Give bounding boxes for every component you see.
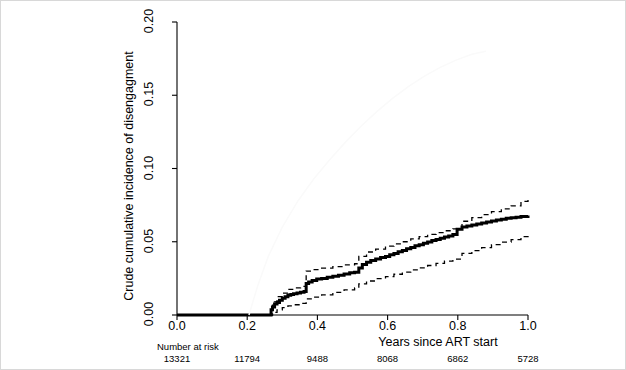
- y-tick-label-4: 0.20: [142, 1, 156, 41]
- x-tick-label-3: 0.6: [379, 319, 396, 333]
- number-at-risk-value-0: 13321: [164, 353, 190, 364]
- series-path-1: [269, 199, 528, 315]
- series-path-2: [269, 234, 528, 315]
- x-tick-label-1: 0.2: [238, 319, 255, 333]
- x-tick-label-2: 0.4: [309, 319, 326, 333]
- number-at-risk-value-3: 8068: [377, 353, 398, 364]
- y-tick-label-0: 0.00: [142, 294, 156, 334]
- y-tick-label-3: 0.15: [142, 74, 156, 114]
- y-axis-label: Crude cumulative incidence of disengagme…: [122, 0, 136, 46]
- x-axis-label: Years since ART start: [378, 335, 497, 349]
- series-path-3: [249, 51, 486, 315]
- series-path-0: [177, 215, 528, 315]
- x-tick-label-5: 1.0: [519, 319, 536, 333]
- data-series-layer: [177, 51, 528, 315]
- y-tick-label-1: 0.05: [142, 221, 156, 261]
- x-tick-label-0: 0.0: [168, 319, 185, 333]
- figure-container: Crude cumulative incidence of disengagme…: [0, 0, 626, 370]
- number-at-risk-value-1: 11794: [234, 353, 260, 364]
- number-at-risk-value-5: 5728: [517, 353, 538, 364]
- y-axis-label-text: Crude cumulative incidence of disengagme…: [122, 46, 136, 306]
- chart-plot: [1, 1, 626, 370]
- y-axis-tick-marks: [172, 22, 177, 315]
- number-at-risk-value-2: 9488: [307, 353, 328, 364]
- number-at-risk-label: Number at risk: [157, 341, 219, 352]
- y-tick-label-2: 0.10: [142, 148, 156, 188]
- number-at-risk-value-4: 6862: [447, 353, 468, 364]
- x-tick-label-4: 0.8: [449, 319, 466, 333]
